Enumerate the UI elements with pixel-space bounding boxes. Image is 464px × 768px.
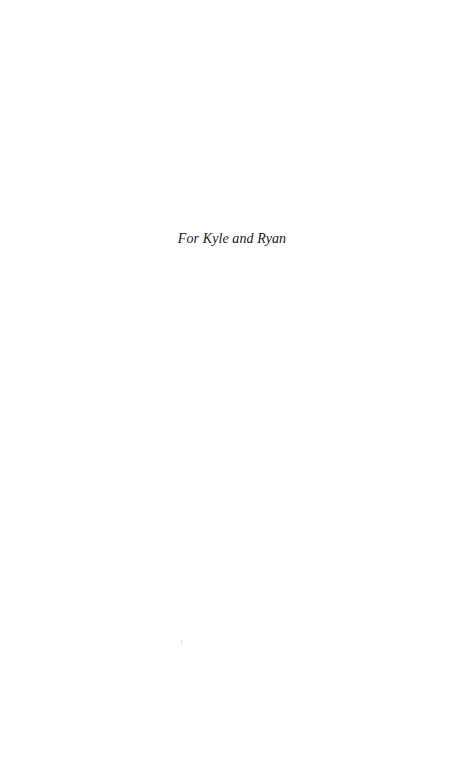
- scan-artifact: [181, 640, 182, 645]
- dedication-text: For Kyle and Ryan: [0, 231, 464, 247]
- book-page: For Kyle and Ryan: [0, 0, 464, 768]
